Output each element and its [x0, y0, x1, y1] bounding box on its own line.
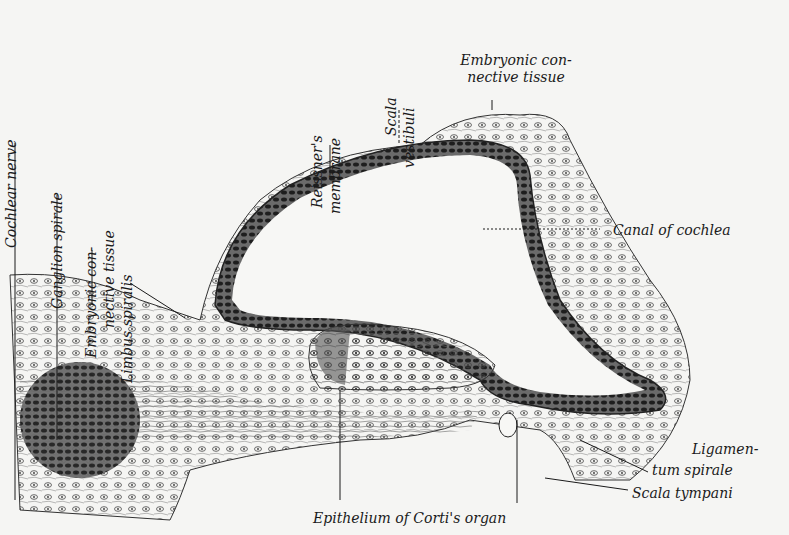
label-ligamentum-1: Ligamen- [692, 442, 758, 457]
label-ganglion-spirale: Ganglion spirale [50, 192, 65, 309]
label-reissners-1: Reissner's [310, 135, 325, 208]
label-reissners-2: membrane [328, 138, 343, 214]
label-scala-tympani: Scala tympani [632, 486, 733, 501]
label-embryonic-ct-left-1: Embryonic con- [84, 247, 99, 358]
label-limbus-spiralis: Limbus spiralis [120, 275, 135, 383]
label-scala-vestibuli-1: Scala [384, 97, 399, 136]
label-embryonic-ct-top-2: nective tissue [436, 70, 596, 85]
label-embryonic-ct-top-1: Embryonic con- [436, 53, 596, 68]
anatomical-figure: Cochlear nerve Ganglion spirale Embryoni… [0, 0, 789, 535]
label-embryonic-ct-left-2: nective tissue [102, 230, 117, 328]
label-cochlear-nerve: Cochlear nerve [4, 140, 19, 248]
cochlea-drawing [0, 0, 789, 535]
label-scala-vestibuli-2: vestibuli [402, 108, 417, 168]
label-canal-of-cochlea: Canal of cochlea [613, 223, 731, 238]
label-epithelium-corti: Epithelium of Corti's organ [313, 511, 506, 526]
label-ligamentum-2: tum spirale [652, 463, 733, 478]
